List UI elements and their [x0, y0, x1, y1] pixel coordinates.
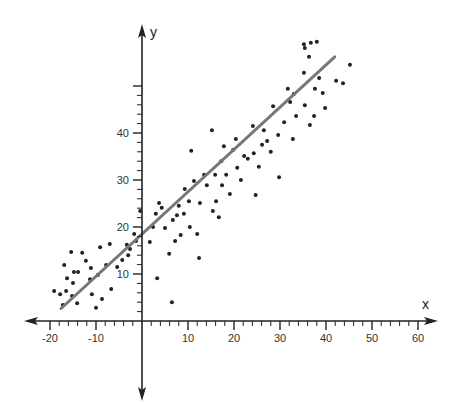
data-point: [171, 218, 175, 222]
x-tick-label: 20: [228, 332, 240, 344]
data-point: [71, 281, 75, 285]
data-point: [228, 192, 232, 196]
data-point: [69, 250, 73, 254]
data-point: [348, 63, 352, 67]
data-point: [210, 128, 214, 132]
y-tick-label: 30: [117, 174, 129, 186]
data-point: [271, 104, 275, 108]
data-point: [308, 123, 312, 127]
data-point: [76, 270, 80, 274]
data-point: [323, 106, 327, 110]
data-point: [52, 289, 56, 293]
data-point: [98, 245, 102, 249]
x-tick-label: -20: [42, 332, 58, 344]
data-point: [89, 266, 93, 270]
data-point: [179, 233, 183, 237]
data-point: [312, 114, 316, 118]
data-point: [132, 232, 136, 236]
data-point: [163, 226, 167, 230]
data-point: [157, 201, 161, 205]
regression-line: [61, 57, 335, 309]
data-point: [242, 154, 246, 158]
data-point: [291, 137, 295, 141]
data-point: [220, 183, 224, 187]
data-point: [252, 151, 256, 155]
data-point: [277, 175, 281, 179]
data-point: [155, 276, 159, 280]
data-point: [160, 206, 164, 210]
data-point: [120, 258, 124, 262]
data-point: [246, 157, 250, 161]
data-point: [224, 173, 228, 177]
data-point: [126, 253, 130, 257]
data-point: [315, 40, 319, 44]
data-point: [188, 225, 192, 229]
data-point: [303, 103, 307, 107]
data-point: [254, 193, 258, 197]
data-point: [148, 240, 152, 244]
data-point: [235, 166, 239, 170]
data-point: [94, 306, 98, 310]
data-point: [108, 242, 112, 246]
data-point: [265, 139, 269, 143]
x-tick-label: 10: [182, 332, 194, 344]
data-point: [214, 199, 218, 203]
data-point: [182, 212, 186, 216]
y-ticks: 10203040: [117, 86, 142, 312]
data-point: [313, 87, 317, 91]
data-point: [286, 87, 290, 91]
data-point: [257, 165, 261, 169]
x-ticks: -20-10102030405060: [42, 321, 424, 344]
data-point: [64, 289, 68, 293]
data-point: [65, 276, 69, 280]
x-tick-label: 50: [366, 332, 378, 344]
data-point: [173, 239, 177, 243]
y-tick-label: 20: [117, 221, 129, 233]
data-point: [341, 81, 345, 85]
data-point: [75, 301, 79, 305]
data-point: [84, 259, 88, 263]
data-point: [262, 128, 266, 132]
data-point: [294, 114, 298, 118]
data-point: [62, 263, 66, 267]
data-point: [302, 42, 306, 46]
data-point: [317, 76, 321, 80]
data-point: [309, 41, 313, 45]
data-point: [58, 292, 62, 296]
data-points: [52, 40, 352, 310]
y-axis-label: y: [150, 24, 157, 40]
data-point: [175, 213, 179, 217]
data-point: [205, 183, 209, 187]
x-tick-label: -10: [88, 332, 104, 344]
x-axis-label: x: [422, 296, 429, 312]
scatter-chart: -20-10102030405060 10203040 x y: [0, 0, 456, 403]
data-point: [154, 212, 158, 216]
x-tick-label: 40: [320, 332, 332, 344]
data-point: [109, 287, 113, 291]
x-tick-label: 30: [274, 332, 286, 344]
data-point: [192, 179, 196, 183]
y-tick-label: 40: [117, 127, 129, 139]
y-tick-label: 10: [117, 268, 129, 280]
data-point: [321, 91, 325, 95]
data-point: [72, 270, 76, 274]
x-tick-label: 60: [412, 332, 424, 344]
data-point: [195, 232, 199, 236]
data-point: [260, 143, 264, 147]
data-point: [217, 215, 221, 219]
data-point: [177, 204, 181, 208]
data-point: [282, 120, 286, 124]
data-point: [269, 150, 273, 154]
axes: -20-10102030405060 10203040 x y: [24, 24, 438, 401]
data-point: [276, 133, 280, 137]
data-point: [234, 137, 238, 141]
data-point: [213, 173, 217, 177]
data-point: [100, 297, 104, 301]
data-point: [189, 149, 193, 153]
data-point: [222, 144, 226, 148]
data-point: [303, 46, 307, 50]
data-point: [211, 209, 215, 213]
data-point: [183, 187, 187, 191]
data-point: [334, 79, 338, 83]
data-point: [170, 300, 174, 304]
